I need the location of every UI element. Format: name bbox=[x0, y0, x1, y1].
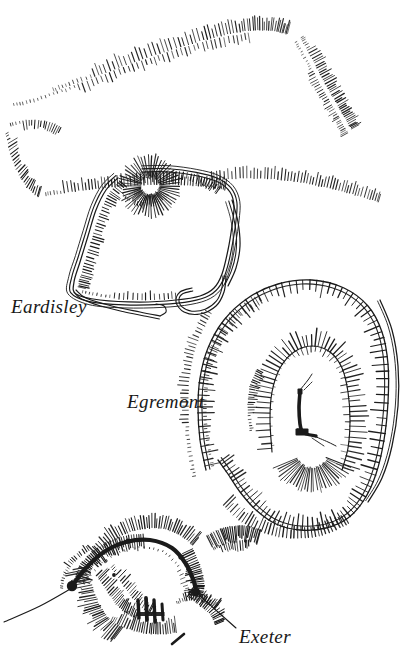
site-label-exeter: Exeter bbox=[239, 627, 291, 646]
plan-egremont bbox=[178, 280, 399, 539]
plan-exeter bbox=[4, 513, 260, 644]
earthwork-plan-drawing bbox=[0, 0, 403, 656]
site-label-eardisley: Eardisley bbox=[11, 297, 87, 316]
plan-eardisley bbox=[6, 16, 381, 319]
site-label-egremont: Egremont bbox=[127, 392, 204, 411]
engraved-plan-plate: Eardisley Egremont Exeter bbox=[0, 0, 403, 656]
